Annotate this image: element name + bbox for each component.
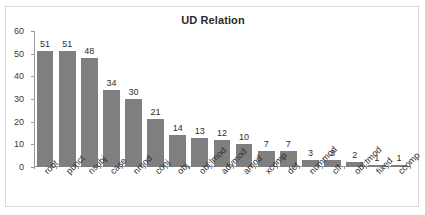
bar-value-label: 48	[84, 46, 94, 56]
bar-slot: 10	[233, 31, 255, 167]
bar-value-label: 14	[173, 123, 183, 133]
chart-page: UD Relation 515148343021141312107733211 …	[0, 0, 425, 215]
bar-slot: 30	[122, 31, 144, 167]
bar-value-label: 21	[151, 107, 161, 117]
chart-frame: UD Relation 515148343021141312107733211 …	[5, 6, 419, 207]
bar-value-label: 12	[217, 128, 227, 138]
bar-value-label: 2	[352, 150, 357, 160]
y-tick-mark	[31, 144, 34, 145]
bar-slot: 51	[34, 31, 56, 167]
y-tick-mark	[31, 76, 34, 77]
x-axis-labels: rootpunctnsubjcasenmodconjobjobl:lmodadv…	[34, 169, 410, 209]
y-tick-label: 20	[6, 117, 29, 127]
bar-slot: 3	[299, 31, 321, 167]
bar-slot: 14	[167, 31, 189, 167]
bar-slot: 7	[277, 31, 299, 167]
y-tick-label: 10	[6, 139, 29, 149]
bar[interactable]	[81, 58, 98, 167]
bar[interactable]	[103, 90, 120, 167]
y-tick-label: 40	[6, 71, 29, 81]
bar[interactable]	[59, 51, 76, 167]
bar-slot: 2	[344, 31, 366, 167]
y-tick-mark	[31, 54, 34, 55]
bar[interactable]	[37, 51, 54, 167]
bar-value-label: 51	[40, 39, 50, 49]
y-tick-label: 0	[6, 162, 29, 172]
bar-slot: 1	[388, 31, 410, 167]
y-tick-mark	[31, 99, 34, 100]
y-tick-mark	[31, 31, 34, 32]
bar-value-label: 3	[308, 148, 313, 158]
y-tick-label: 30	[6, 94, 29, 104]
bar-slot: 34	[100, 31, 122, 167]
bar-slot: 7	[255, 31, 277, 167]
top-caption	[0, 0, 425, 5]
bar-slot: 13	[189, 31, 211, 167]
bar-value-label: 34	[106, 78, 116, 88]
bar-value-label: 7	[286, 139, 291, 149]
y-tick-mark	[31, 122, 34, 123]
bar-value-label: 30	[129, 87, 139, 97]
y-tick-label: 60	[6, 26, 29, 36]
bar[interactable]	[125, 99, 142, 167]
bar-value-label: 10	[239, 132, 249, 142]
bar-slot: 48	[78, 31, 100, 167]
bar-value-label: 13	[195, 126, 205, 136]
bar-slot: 51	[56, 31, 78, 167]
bar-slot: 21	[145, 31, 167, 167]
chart-title: UD Relation	[6, 14, 420, 26]
bar-value-label: 51	[62, 39, 72, 49]
y-tick-label: 50	[6, 49, 29, 59]
bar-value-label: 7	[264, 139, 269, 149]
bar-value-label: 1	[396, 153, 401, 163]
